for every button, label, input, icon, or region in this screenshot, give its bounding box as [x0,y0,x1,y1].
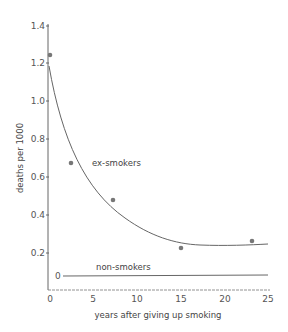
data-point [69,161,74,166]
data-point [48,53,53,58]
data-point [179,246,184,251]
y-tick-0.2: 0.2 [31,248,45,258]
y-ticks: 0.2 0.4 0.6 0.8 1.0 1.2 1.4 [31,21,49,258]
chart: 0.2 0.4 0.6 0.8 1.0 1.2 1.4 0 5 10 15 20… [0,0,288,332]
non-smokers-zero-label: 0 [55,271,61,281]
x-tick-0: 0 [47,294,53,304]
x-axis-label: years after giving up smoking [95,310,222,320]
x-ticks: 0 5 10 15 20 25 [47,294,274,304]
ex-smokers-points [48,53,255,251]
y-tick-1.2: 1.2 [31,58,45,68]
y-tick-0.6: 0.6 [31,172,46,182]
ex-smokers-curve [49,66,268,245]
x-tick-15: 15 [175,294,186,304]
y-tick-0.4: 0.4 [31,210,46,220]
non-smokers-line [63,275,268,276]
y-axis-label: deaths per 1000 [15,123,25,193]
y-tick-1.4: 1.4 [31,21,46,31]
data-point [250,239,255,244]
x-tick-5: 5 [90,294,96,304]
y-tick-1.0: 1.0 [31,96,46,106]
x-tick-25: 25 [262,294,273,304]
x-tick-10: 10 [131,294,143,304]
ex-smokers-label: ex-smokers [92,158,141,168]
non-smokers-label: non-smokers [96,262,151,272]
x-tick-20: 20 [219,294,231,304]
y-tick-0.8: 0.8 [31,134,46,144]
data-point [111,198,116,203]
